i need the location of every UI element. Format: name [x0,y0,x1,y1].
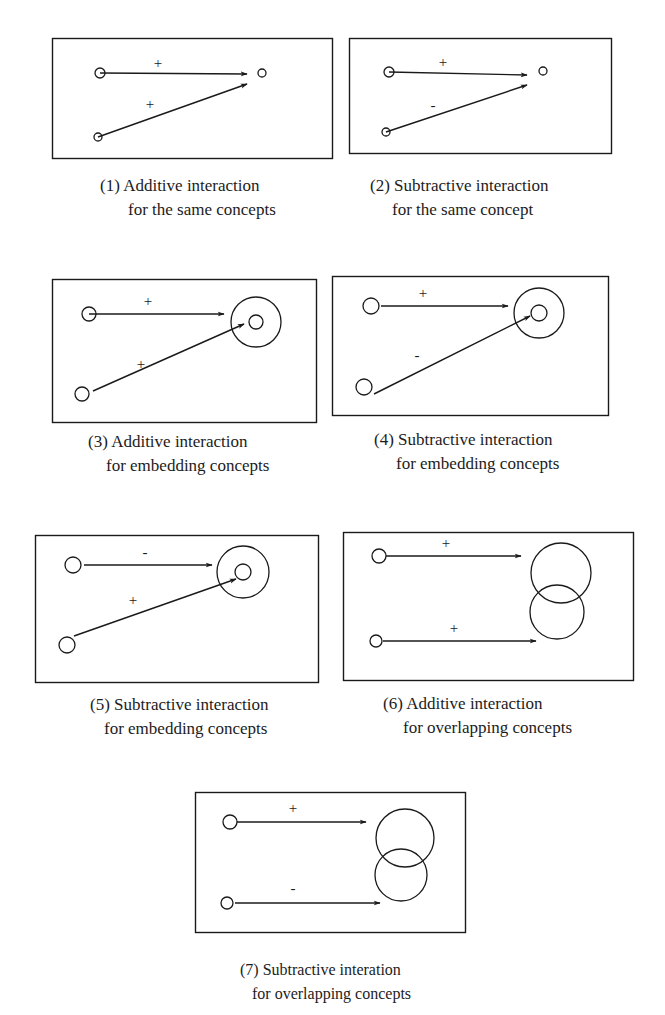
panel-7: +- [196,793,466,933]
minus-sign-label: - [143,544,148,560]
plus-sign-label: + [146,96,154,112]
caption-line-2: for embedding concepts [374,452,559,476]
caption-line-2: for embedding concepts [88,454,269,478]
source-concept-node [221,897,233,909]
panel-4: +- [333,277,609,416]
minus-sign-label: - [291,880,296,896]
plus-sign-label: + [419,285,427,301]
caption-panel-5: (5) Subtractive interaction for embeddin… [90,693,268,741]
panel-frame [196,793,466,933]
caption-panel-3: (3) Additive interaction for embedding c… [88,430,269,478]
caption-line-1: (2) Subtractive interaction [370,174,548,198]
plus-sign-label: + [450,620,458,636]
panel-1: ++ [53,39,333,159]
embedding-concept-circle [231,297,281,347]
plus-sign-label: + [144,293,152,309]
source-concept-node [59,637,75,653]
source-concept-node [372,549,386,563]
plus-sign-label: + [289,800,297,816]
caption-line-2: for embedding concepts [90,717,268,741]
overlapping-concept-circle [530,585,584,639]
caption-line-2: for overlapping concepts [383,716,572,740]
interaction-arrow [98,84,247,137]
target-concept-node [531,305,547,321]
panel-2: +- [350,39,612,154]
target-concept-node [539,67,547,75]
source-concept-node [65,557,81,573]
interaction-arrow [386,85,527,132]
caption-panel-4: (4) Subtractive interaction for embeddin… [374,428,559,476]
overlapping-concept-circle [376,809,434,867]
panel-5: -+ [36,536,319,683]
minus-sign-label: - [415,347,420,363]
caption-line-1: (4) Subtractive interaction [374,428,559,452]
source-concept-node [75,387,89,401]
overlapping-concept-circle [531,543,591,603]
source-concept-node [356,379,372,395]
caption-panel-2: (2) Subtractive interaction for the same… [370,174,548,222]
embedding-concept-circle [217,546,269,598]
minus-sign-label: - [431,97,436,113]
target-concept-node [258,69,266,77]
caption-panel-1: (1) Additive interaction for the same co… [100,174,276,222]
panel-frame [344,533,634,681]
caption-line-1: (1) Additive interaction [100,174,276,198]
caption-line-2: for the same concepts [100,198,276,222]
caption-line-1: (7) Subtractive interation [240,958,411,982]
overlapping-concept-circle [375,849,427,901]
source-concept-node [370,635,382,647]
caption-line-1: (6) Additive interaction [383,692,572,716]
caption-line-1: (3) Additive interaction [88,430,269,454]
interaction-arrow [93,324,244,391]
panel-6: ++ [344,533,634,681]
target-concept-node [249,315,263,329]
interaction-arrow [389,72,527,75]
plus-sign-label: + [129,592,137,608]
panel-frame [36,536,319,683]
plus-sign-label: + [442,535,450,551]
source-concept-node [363,298,379,314]
concept-interaction-figure: +++-+++--++++- [0,0,665,1015]
caption-line-1: (5) Subtractive interaction [90,693,268,717]
panel-3: ++ [53,280,317,423]
source-concept-node [223,815,237,829]
plus-sign-label: + [137,356,145,372]
plus-sign-label: + [154,55,162,71]
target-concept-node [235,564,251,580]
caption-line-2: for the same concept [370,198,548,222]
caption-panel-7: (7) Subtractive interation for overlappi… [240,958,411,1006]
plus-sign-label: + [439,54,447,70]
interaction-arrow [74,579,236,636]
caption-panel-6: (6) Additive interaction for overlapping… [383,692,572,740]
caption-line-2: for overlapping concepts [240,982,411,1006]
interaction-arrow [374,316,530,394]
panel-frame [53,39,333,159]
panel-frame [350,39,612,154]
interaction-arrow [100,73,247,74]
embedding-concept-circle [514,288,564,338]
